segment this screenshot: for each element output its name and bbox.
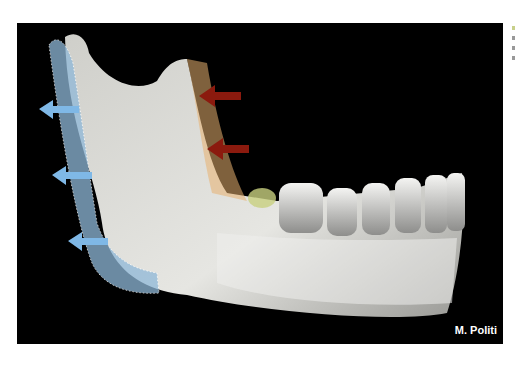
image-credit: M. Politi [455, 324, 497, 336]
mandible-illustration [17, 23, 503, 344]
figure-panel: M. Politi [17, 23, 503, 344]
margin-marks [512, 26, 516, 66]
teeth [279, 173, 465, 236]
